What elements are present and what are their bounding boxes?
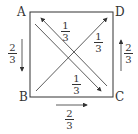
- weight-b-to-d: 1 3: [94, 31, 103, 54]
- weight-c-to-a: 1 3: [61, 20, 70, 43]
- weight-a-to-c: 1 3: [72, 73, 81, 96]
- denominator: 3: [62, 32, 68, 43]
- numerator: 2: [66, 108, 72, 119]
- denominator: 3: [9, 54, 15, 65]
- numerator: 1: [62, 20, 68, 31]
- numerator: 2: [9, 42, 15, 53]
- numerator: 1: [95, 31, 101, 42]
- weight-a-to-b: 2 3: [8, 42, 17, 65]
- weight-c-to-d: 2 3: [124, 42, 133, 65]
- numerator: 1: [73, 73, 79, 84]
- vertex-c-label: C: [115, 91, 124, 103]
- denominator: 3: [125, 54, 131, 65]
- vertex-d-label: D: [115, 6, 125, 18]
- vertex-b-label: B: [19, 91, 28, 103]
- denominator: 3: [66, 120, 72, 131]
- weight-b-to-c: 2 3: [65, 108, 74, 131]
- numerator: 2: [125, 42, 131, 53]
- vertex-a-label: A: [17, 6, 26, 18]
- denominator: 3: [73, 85, 79, 96]
- denominator: 3: [95, 43, 101, 54]
